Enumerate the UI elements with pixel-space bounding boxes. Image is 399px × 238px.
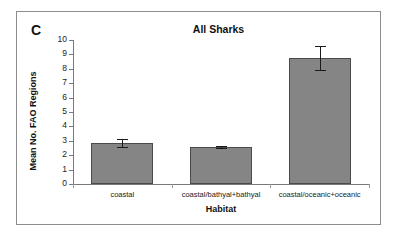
bar [289,58,351,184]
y-tick-label: 3 [62,135,67,145]
y-tick-label: 8 [62,63,67,73]
y-tick-label: 4 [62,120,67,130]
error-bar [320,46,321,69]
y-tick-label: 2 [62,149,67,159]
error-cap-upper [216,146,227,147]
x-axis-title: Habitat [73,204,369,214]
figure-panel: C All Sharks Mean No. FAO Regions 012345… [16,11,381,225]
x-axis-line [73,184,369,185]
y-tick-label: 6 [62,92,67,102]
category-label: coastal [110,190,134,199]
y-tick [69,98,73,99]
chart-title: All Sharks [17,23,380,35]
plot-area: 012345678910 coastalcoastal/bathyal+bath… [73,40,369,184]
y-tick [69,141,73,142]
y-axis-title: Mean No. FAO Regions [28,56,38,186]
x-tick [73,184,74,188]
y-tick [69,40,73,41]
y-tick-label: 1 [62,164,67,174]
y-tick-label: 5 [62,106,67,116]
y-tick [69,69,73,70]
category-label: coastal/bathyal+bathyal [182,190,261,199]
y-tick [69,83,73,84]
y-tick-label: 10 [58,34,67,44]
error-cap-upper [117,139,128,140]
error-cap-lower [117,147,128,148]
y-tick-label: 7 [62,77,67,87]
x-tick [172,184,173,188]
error-cap-lower [216,148,227,149]
y-tick [69,155,73,156]
error-cap-upper [315,46,326,47]
y-tick [69,54,73,55]
bar [91,143,153,184]
y-tick [69,112,73,113]
y-tick [69,126,73,127]
x-tick [369,184,370,188]
x-tick [270,184,271,188]
bar [190,147,252,184]
y-tick [69,170,73,171]
error-cap-lower [315,70,326,71]
y-tick-label: 9 [62,48,67,58]
error-bar [122,139,123,147]
y-tick-label: 0 [62,178,67,188]
category-label: coastal/oceanic+oceanic [279,190,361,199]
y-axis-line [73,40,74,184]
